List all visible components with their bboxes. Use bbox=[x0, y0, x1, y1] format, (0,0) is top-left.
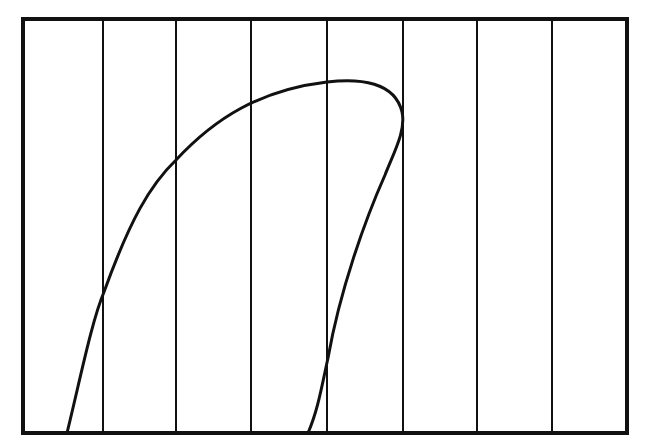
curve-diagram bbox=[0, 0, 651, 443]
curve-path bbox=[67, 81, 403, 433]
